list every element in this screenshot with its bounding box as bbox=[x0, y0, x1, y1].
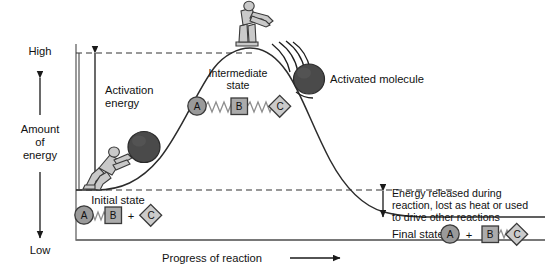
y-axis-low-label: Low bbox=[30, 244, 51, 256]
molecule-a-label: A bbox=[194, 101, 201, 112]
diagram-canvas: High Amount of energy Low Progress of re… bbox=[0, 0, 548, 274]
plus-sign-final: + bbox=[466, 229, 473, 241]
y-axis-high-label: High bbox=[28, 45, 51, 57]
final-state-label: Final state: bbox=[392, 228, 447, 240]
energy-released-label-line1: Energy released during bbox=[392, 187, 502, 199]
y-axis-title-line3: energy bbox=[23, 149, 58, 161]
molecule-c-final-label: C bbox=[513, 229, 520, 240]
energy-released-label-line2: reaction, lost as heat or used bbox=[392, 199, 528, 211]
intermediate-state-label-line1: Intermediate bbox=[209, 67, 268, 79]
x-axis: Progress of reaction bbox=[162, 252, 340, 264]
x-axis-label: Progress of reaction bbox=[162, 252, 262, 264]
molecule-c-label: C bbox=[276, 101, 283, 112]
intermediate-state-group: Intermediate state A B C bbox=[188, 67, 291, 117]
activated-molecule-group: Activated molecule bbox=[272, 41, 424, 98]
molecule-b-initial-label: B bbox=[110, 210, 117, 221]
molecule-b-final-label: B bbox=[487, 229, 494, 240]
initial-state-label: Initial state bbox=[91, 194, 144, 206]
y-axis-title-line2: of bbox=[35, 136, 45, 148]
boulder-uphill bbox=[128, 132, 160, 163]
activated-molecule-label: Activated molecule bbox=[330, 73, 424, 85]
activation-energy-label-line2: energy bbox=[105, 97, 140, 109]
activation-energy-label-line1: Activation bbox=[105, 84, 154, 96]
person-at-summit bbox=[236, 1, 273, 46]
intermediate-state-label-line2: state bbox=[227, 79, 250, 91]
molecule-a-final-label: A bbox=[447, 229, 454, 240]
molecule-a-initial-label: A bbox=[81, 210, 88, 221]
final-state-group: Final state: A + B C bbox=[392, 223, 528, 245]
molecule-b-label: B bbox=[236, 101, 243, 112]
y-axis-title-line1: Amount bbox=[21, 123, 60, 135]
energy-released-label-line3: to drive other reactions bbox=[392, 211, 500, 223]
initial-state-group: Initial state A B + C bbox=[75, 194, 162, 226]
molecule-c-initial-label: C bbox=[147, 210, 154, 221]
energy-diagram-figure: High Amount of energy Low Progress of re… bbox=[0, 0, 548, 274]
plus-sign-initial: + bbox=[128, 210, 135, 222]
activated-molecule-boulder bbox=[294, 64, 325, 94]
y-axis: High Amount of energy Low bbox=[21, 45, 60, 256]
